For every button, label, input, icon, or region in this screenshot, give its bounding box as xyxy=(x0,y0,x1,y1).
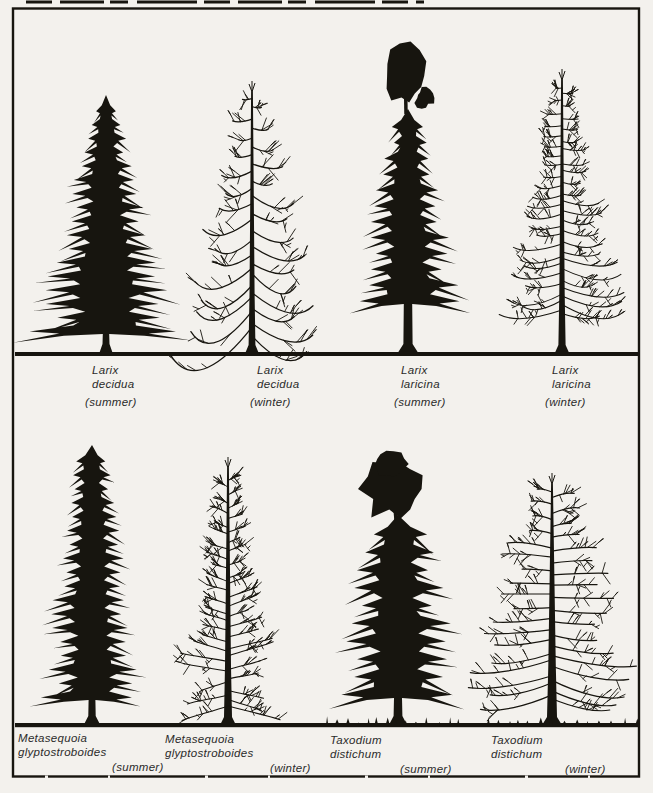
tree-label-metasequoia-glyptostroboides-winter: Metasequoia glyptostroboides (winter) xyxy=(165,732,311,775)
tree-genus: Taxodium xyxy=(491,733,606,747)
tree-label-larix-decidua-summer: Larix decidua (summer) xyxy=(92,363,137,409)
tree-season: (winter) xyxy=(270,761,311,775)
tree-genus: Taxodium xyxy=(330,733,452,747)
tree-genus: Larix xyxy=(92,363,137,377)
tree-species: distichum xyxy=(491,747,606,761)
crown-silhouette xyxy=(30,445,147,726)
apex-twigs xyxy=(559,69,565,80)
crown-silhouette xyxy=(329,515,465,726)
tree-season: (summer) xyxy=(85,395,137,409)
tree-silhouette-larix-decidua-summer xyxy=(13,95,192,354)
tree-silhouette-larix-decidua-winter xyxy=(166,81,317,371)
tree-season: (summer) xyxy=(400,762,452,776)
tree-genus: Larix xyxy=(401,363,446,377)
tree-label-metasequoia-glyptostroboides-summer: Metasequoia glyptostroboides (summer) xyxy=(18,731,164,774)
tree-silhouette-taxodium-distichum-summer xyxy=(329,451,465,726)
tree-label-taxodium-distichum-winter: Taxodium distichum (winter) xyxy=(491,733,606,776)
tree-genus: Metasequoia xyxy=(18,731,164,745)
tree-species: decidua xyxy=(257,377,299,391)
tree-species: glyptostroboides xyxy=(165,746,311,760)
tree-species: distichum xyxy=(330,747,452,761)
trunk xyxy=(542,484,563,726)
tree-label-larix-decidua-winter: Larix decidua (winter) xyxy=(257,363,299,409)
crown-silhouette xyxy=(349,109,470,354)
tree-species: laricina xyxy=(552,377,591,391)
tree-season: (winter) xyxy=(545,395,591,409)
tree-silhouette-metasequoia-glyptostroboides-summer xyxy=(30,445,147,726)
tree-silhouette-metasequoia-glyptostroboides-winter xyxy=(174,457,287,726)
crown-silhouette xyxy=(13,95,192,354)
tree-season: (summer) xyxy=(394,395,446,409)
tree-silhouette-larix-laricina-winter xyxy=(499,69,625,354)
tree-genus: Metasequoia xyxy=(165,732,311,746)
tree-season: (summer) xyxy=(112,760,164,774)
apex-twigs xyxy=(249,81,255,92)
tree-species: laricina xyxy=(401,377,446,391)
tree-label-larix-laricina-winter: Larix laricina (winter) xyxy=(552,363,591,409)
tree-season: (winter) xyxy=(565,762,606,776)
figure-page: Larix decidua (summer) Larix decidua (wi… xyxy=(0,0,653,793)
twigs xyxy=(166,91,317,371)
tree-silhouette-larix-laricina-summer xyxy=(349,42,470,355)
tree-genus: Larix xyxy=(257,363,299,377)
tree-label-taxodium-distichum-summer: Taxodium distichum (summer) xyxy=(330,733,452,776)
apex-twigs xyxy=(225,457,231,468)
trunk xyxy=(554,80,569,354)
tree-species: decidua xyxy=(92,377,137,391)
apex-twigs xyxy=(549,473,555,484)
tree-species: glyptostroboides xyxy=(18,745,164,759)
tree-silhouette-taxodium-distichum-winter xyxy=(468,473,636,726)
tree-label-larix-laricina-summer: Larix laricina (summer) xyxy=(401,363,446,409)
tree-season: (winter) xyxy=(250,395,299,409)
tree-genus: Larix xyxy=(552,363,591,377)
